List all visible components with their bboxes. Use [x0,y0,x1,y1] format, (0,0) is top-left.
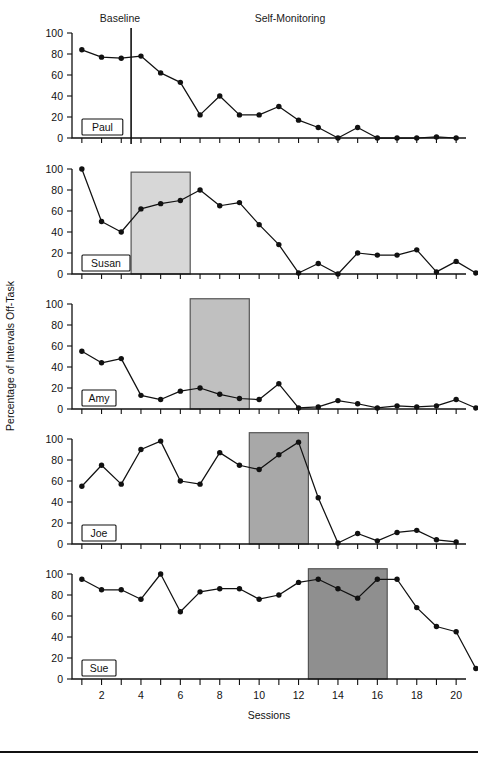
data-point [119,229,124,234]
x-axis-title: Sessions [248,709,291,721]
data-point [434,624,439,629]
y-tick-label: 40 [51,631,63,643]
data-point [138,53,143,58]
data-point [276,592,281,597]
data-point [414,528,419,533]
data-point [276,104,281,109]
data-point [453,629,458,634]
data-point [316,261,321,266]
y-tick-label: 100 [45,298,63,310]
data-point [355,595,360,600]
x-tick-label: 16 [372,689,384,701]
data-point [355,250,360,255]
panel-susan: 020406080100Susan [45,163,478,280]
data-point [197,385,202,390]
x-tick-label: 6 [177,689,183,701]
participant-name-label: Joe [91,527,108,539]
data-point [355,401,360,406]
y-tick-label: 80 [51,319,63,331]
data-line-paul [82,50,456,138]
participant-name-label: Sue [90,662,109,674]
data-point [99,54,104,59]
data-point [355,125,360,130]
data-point [79,166,84,171]
participant-name-label: Paul [92,121,113,133]
data-point [296,117,301,122]
data-point [237,396,242,401]
data-point [256,467,261,472]
y-tick-label: 100 [45,568,63,580]
y-tick-label: 40 [51,496,63,508]
data-point [453,259,458,264]
data-point [178,478,183,483]
data-point [453,539,458,544]
panel-amy: 020406080100Amy [45,298,478,415]
data-point [375,135,380,140]
data-point [276,381,281,386]
data-point [217,392,222,397]
data-point [158,438,163,443]
multiple-baseline-figure: BaselineSelf-Monitoring020406080100Paul0… [0,0,478,764]
x-tick-label: 10 [253,689,265,701]
data-point [119,587,124,592]
y-tick-label: 20 [51,382,63,394]
data-point [197,481,202,486]
data-point [178,609,183,614]
y-tick-label: 80 [51,454,63,466]
y-tick-label: 100 [45,433,63,445]
data-point [256,397,261,402]
data-point [335,271,340,276]
y-tick-label: 20 [51,111,63,123]
data-point [119,356,124,361]
data-point [434,269,439,274]
data-point [414,605,419,610]
participant-name-label: Amy [89,392,111,404]
data-point [158,201,163,206]
data-point [79,577,84,582]
data-point [276,452,281,457]
x-tick-label: 2 [99,689,105,701]
data-point [414,135,419,140]
x-tick-label: 14 [332,689,344,701]
data-point [256,112,261,117]
participant-name-label: Susan [91,257,121,269]
x-tick-label: 8 [217,689,223,701]
data-point [375,252,380,257]
data-point [473,666,478,671]
data-point [335,135,340,140]
data-point [316,495,321,500]
phase-header-label-1: Baseline [100,12,140,24]
y-tick-label: 40 [51,226,63,238]
data-point [138,597,143,602]
panel-axes [72,304,466,409]
data-point [99,463,104,468]
data-point [296,580,301,585]
data-point [99,360,104,365]
y-tick-label: 20 [51,247,63,259]
data-point [178,198,183,203]
x-tick-label: 4 [138,689,144,701]
data-point [119,481,124,486]
data-point [79,349,84,354]
data-point [158,397,163,402]
data-point [394,135,399,140]
y-tick-label: 100 [45,163,63,175]
data-line-amy [82,351,476,408]
phase-shade-block [249,433,308,544]
data-point [335,398,340,403]
y-tick-label: 60 [51,610,63,622]
data-point [473,405,478,410]
data-point [375,577,380,582]
y-tick-label: 0 [57,403,63,415]
data-point [414,404,419,409]
data-point [453,135,458,140]
data-point [99,219,104,224]
data-point [394,252,399,257]
y-tick-label: 0 [57,132,63,144]
y-tick-label: 40 [51,90,63,102]
y-tick-label: 80 [51,184,63,196]
data-point [296,270,301,275]
y-tick-label: 0 [57,268,63,280]
data-point [138,447,143,452]
panel-axes [72,574,466,679]
